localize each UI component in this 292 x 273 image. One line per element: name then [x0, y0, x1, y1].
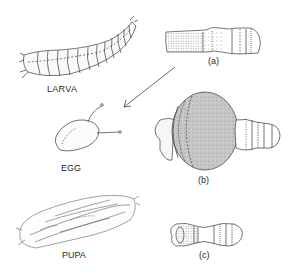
variant-c-label: (c) — [199, 250, 210, 260]
variant-b-illustration — [155, 92, 280, 170]
life-cycle-diagram: LARVA (a) EGG — [0, 0, 292, 273]
arrow-icon — [124, 67, 175, 107]
variant-a-label: (a) — [208, 56, 219, 66]
larva-illustration — [19, 16, 138, 78]
variant-c-illustration — [171, 223, 243, 246]
egg-label: EGG — [61, 163, 81, 173]
egg-illustration — [55, 104, 121, 151]
variant-a-illustration — [166, 27, 261, 54]
pupa-label: PUPA — [62, 250, 86, 260]
variant-b-label: (b) — [198, 175, 209, 185]
larva-label: LARVA — [47, 84, 77, 94]
pupa-illustration — [16, 195, 140, 248]
